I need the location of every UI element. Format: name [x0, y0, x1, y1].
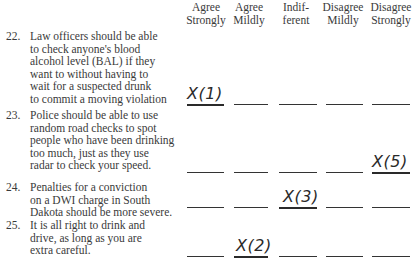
answer-blank-q24-disagree-strongly[interactable]: [372, 207, 410, 208]
answer-blank-q23-disagree-strongly[interactable]: X(5): [372, 172, 410, 174]
answer-blank-q22-indifferent[interactable]: [279, 104, 317, 105]
column-header-line: Strongly: [181, 14, 231, 27]
answer-blank-q25-disagree-mildly[interactable]: [326, 256, 363, 257]
question-number: 22.: [6, 30, 20, 43]
column-header-line: ferent: [276, 14, 316, 27]
question-line: drive, as long as you are: [30, 232, 145, 245]
question-line: to commit a moving violation: [30, 93, 167, 106]
question-number: 24.: [6, 181, 20, 194]
answer-blank-q22-agree-mildly[interactable]: [234, 104, 268, 105]
column-header-disagree-strongly: Disagree Strongly: [366, 1, 413, 27]
question-line: random road checks to spot: [30, 122, 174, 135]
question-line: on a DWI charge in South: [30, 194, 172, 207]
question-23: 23. Police should be able to use random …: [6, 109, 174, 172]
column-header-line: Disagree: [318, 1, 368, 14]
question-line: Dakota should be more severe.: [30, 206, 172, 219]
question-line: too much, just as they use: [30, 147, 174, 160]
answer-blank-q25-disagree-strongly[interactable]: [372, 256, 410, 257]
question-line: Law officers should be able: [30, 30, 167, 43]
x-mark: X(3): [283, 189, 317, 205]
question-number: 25.: [6, 219, 20, 232]
x-mark: X(5): [372, 154, 410, 170]
question-line: It is all right to drink and: [30, 219, 145, 232]
column-header-indifferent: Indif- ferent: [276, 1, 316, 27]
answer-blank-q23-indifferent[interactable]: [279, 172, 317, 173]
question-line: wait for a suspected drunk: [30, 80, 167, 93]
question-line: people who have been drinking: [30, 134, 174, 147]
question-line: extra careful.: [30, 244, 145, 257]
question-line: alcohol level (BAL) if they: [30, 55, 167, 68]
question-line: radar to check your speed.: [30, 159, 174, 172]
column-header-line: Agree: [181, 1, 231, 14]
answer-blank-q22-disagree-strongly[interactable]: [372, 104, 410, 105]
column-header-line: Mildly: [318, 14, 368, 27]
column-header-line: Strongly: [366, 14, 413, 27]
column-header-line: Mildly: [229, 14, 269, 27]
answer-blank-q23-disagree-mildly[interactable]: [326, 172, 363, 173]
answer-blank-q22-disagree-mildly[interactable]: [326, 104, 363, 105]
answer-blank-q24-indifferent[interactable]: X(3): [279, 207, 317, 209]
question-line: Penalties for a conviction: [30, 181, 172, 194]
answer-blank-q23-agree-strongly[interactable]: [187, 172, 224, 173]
column-header-line: Agree: [229, 1, 269, 14]
question-24: 24. Penalties for a conviction on a DWI …: [6, 181, 172, 219]
answer-blank-q22-agree-strongly[interactable]: X(1): [187, 104, 224, 106]
question-22: 22. Law officers should be able to check…: [6, 30, 167, 106]
x-mark: X(2): [236, 238, 268, 254]
question-line: to check anyone's blood: [30, 43, 167, 56]
answer-blank-q24-disagree-mildly[interactable]: [326, 207, 363, 208]
answer-blank-q25-indifferent[interactable]: [279, 256, 317, 257]
answer-blank-q23-agree-mildly[interactable]: [234, 172, 268, 173]
column-header-agree-mildly: Agree Mildly: [229, 1, 269, 27]
column-header-agree-strongly: Agree Strongly: [181, 1, 231, 27]
question-number: 23.: [6, 109, 20, 122]
column-header-line: Disagree: [366, 1, 413, 14]
answer-blank-q25-agree-strongly[interactable]: [187, 256, 224, 257]
column-header-disagree-mildly: Disagree Mildly: [318, 1, 368, 27]
answer-blank-q24-agree-mildly[interactable]: [234, 207, 268, 208]
question-25: 25. It is all right to drink and drive, …: [6, 219, 145, 257]
column-header-line: Indif-: [276, 1, 316, 14]
answer-blank-q25-agree-mildly[interactable]: X(2): [234, 256, 268, 258]
question-line: want to without having to: [30, 68, 167, 81]
answer-blank-q24-agree-strongly[interactable]: [187, 207, 224, 208]
question-line: Police should be able to use: [30, 109, 174, 122]
x-mark: X(1): [187, 86, 224, 102]
